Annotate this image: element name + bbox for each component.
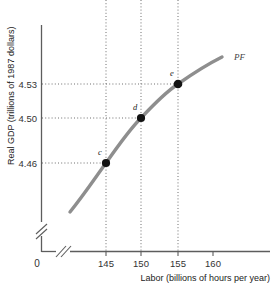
origin-label: 0 (34, 258, 40, 269)
x-tick-label-150: 150 (133, 258, 149, 269)
data-point-d (137, 114, 145, 122)
x-axis-break-mark-1 (56, 246, 66, 257)
y-axis-break-mark-1 (36, 224, 47, 234)
x-axis-break-mark-2 (61, 246, 71, 257)
pf-curve (70, 57, 222, 212)
data-point-label-c: c (98, 147, 102, 157)
y-tick-label-4-46: 4.46 (19, 158, 38, 169)
production-function-chart: c d e PF 4.53 4.50 4.46 145 150 155 160 … (0, 0, 272, 286)
data-point-label-e: e (170, 68, 174, 78)
data-point-e (174, 80, 183, 89)
data-point-c (102, 159, 110, 167)
y-tick-label-4-53: 4.53 (19, 79, 38, 90)
y-tick-label-4-50: 4.50 (19, 113, 38, 124)
x-tick-label-145: 145 (98, 258, 114, 269)
x-axis-title: Labor (billions of hours per year) (140, 273, 270, 283)
data-point-label-d: d (133, 102, 138, 112)
series-label-pf: PF (233, 52, 245, 62)
chart-canvas: c d e PF 4.53 4.50 4.46 145 150 155 160 … (0, 0, 272, 286)
x-tick-label-155: 155 (170, 258, 186, 269)
y-axis-title: Real GDP (trillions of 1987 dollars) (6, 27, 16, 165)
x-tick-label-160: 160 (205, 258, 221, 269)
